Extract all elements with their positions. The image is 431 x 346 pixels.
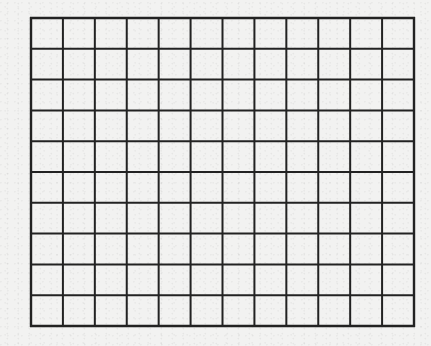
grid-cell <box>382 295 414 326</box>
grid-cell <box>350 18 382 49</box>
grid-cell <box>286 18 318 49</box>
grid-cell <box>286 141 318 172</box>
grid-cell <box>350 234 382 265</box>
grid-cell <box>254 141 286 172</box>
grid-cell <box>382 203 414 234</box>
grid-cell <box>382 234 414 265</box>
grid-cell <box>223 203 255 234</box>
grid-cell <box>191 49 223 80</box>
grid-cell <box>286 110 318 141</box>
grid-cell <box>95 172 127 203</box>
grid-cell <box>63 141 95 172</box>
grid-cell <box>31 49 63 80</box>
grid-cell <box>350 141 382 172</box>
grid-cell <box>159 49 191 80</box>
grid-cell <box>286 264 318 295</box>
grid-cell <box>191 110 223 141</box>
grid-cell <box>31 110 63 141</box>
grid-cell <box>159 234 191 265</box>
grid-cell <box>350 172 382 203</box>
grid-cell <box>254 264 286 295</box>
grid-cell <box>95 295 127 326</box>
grid-cell <box>63 110 95 141</box>
grid-cell <box>31 234 63 265</box>
grid-cell <box>191 203 223 234</box>
grid-cell <box>382 80 414 111</box>
grid-cell <box>191 172 223 203</box>
grid-cell <box>31 295 63 326</box>
grid-cell <box>254 18 286 49</box>
grid-diagram <box>0 0 431 346</box>
grid-cell <box>63 18 95 49</box>
grid-cell <box>95 141 127 172</box>
grid-cell <box>254 110 286 141</box>
grid-cell <box>63 295 95 326</box>
grid-cell <box>191 234 223 265</box>
grid-cell <box>95 234 127 265</box>
grid-cell <box>95 18 127 49</box>
grid-cell <box>127 295 159 326</box>
grid-cell <box>382 49 414 80</box>
grid-cell <box>127 234 159 265</box>
grid-cell <box>159 110 191 141</box>
grid-cell <box>223 80 255 111</box>
grid-cell <box>63 172 95 203</box>
grid-cell <box>318 110 350 141</box>
grid-cell <box>95 49 127 80</box>
grid-cell <box>286 49 318 80</box>
grid-cell <box>95 110 127 141</box>
grid-cell <box>254 295 286 326</box>
grid-cell <box>127 80 159 111</box>
grid-cell <box>223 141 255 172</box>
grid-cell <box>31 172 63 203</box>
grid-cell <box>95 203 127 234</box>
grid-cell <box>159 18 191 49</box>
grid-cell <box>318 141 350 172</box>
grid-cell <box>31 264 63 295</box>
grid-cell <box>382 110 414 141</box>
grid-cell <box>127 172 159 203</box>
grid-cell <box>223 49 255 80</box>
grid-cell <box>318 264 350 295</box>
grid-cell <box>63 80 95 111</box>
grid-cell <box>382 141 414 172</box>
grid-cell <box>31 203 63 234</box>
grid-cell <box>191 18 223 49</box>
grid-cell <box>254 234 286 265</box>
grid-cell <box>254 172 286 203</box>
grid-cell <box>350 80 382 111</box>
grid-cell <box>254 80 286 111</box>
grid-cell <box>286 203 318 234</box>
grid-cell <box>223 172 255 203</box>
grid-cell <box>95 80 127 111</box>
grid-cell <box>159 141 191 172</box>
grid-cell <box>63 203 95 234</box>
grid-cell <box>254 203 286 234</box>
grid-cell <box>63 234 95 265</box>
grid-cell <box>191 141 223 172</box>
grid-cell <box>318 234 350 265</box>
grid-cell <box>286 295 318 326</box>
grid-cell <box>127 49 159 80</box>
grid-cell <box>318 295 350 326</box>
grid-cell <box>127 141 159 172</box>
grid-cell <box>223 110 255 141</box>
grid-cell <box>286 172 318 203</box>
grid-cell <box>191 295 223 326</box>
grid-cell <box>382 18 414 49</box>
grid-cell <box>127 203 159 234</box>
grid-cell <box>350 264 382 295</box>
grid-cell <box>223 295 255 326</box>
grid-cell <box>31 141 63 172</box>
grid-cell <box>95 264 127 295</box>
grid-cell <box>286 234 318 265</box>
grid-cell <box>223 264 255 295</box>
grid-cell <box>31 80 63 111</box>
grid-cell <box>350 49 382 80</box>
grid-cell <box>350 295 382 326</box>
grid-cell <box>127 110 159 141</box>
grid-cell <box>127 18 159 49</box>
grid-cell <box>382 264 414 295</box>
grid-cell <box>191 264 223 295</box>
grid-cell <box>350 203 382 234</box>
